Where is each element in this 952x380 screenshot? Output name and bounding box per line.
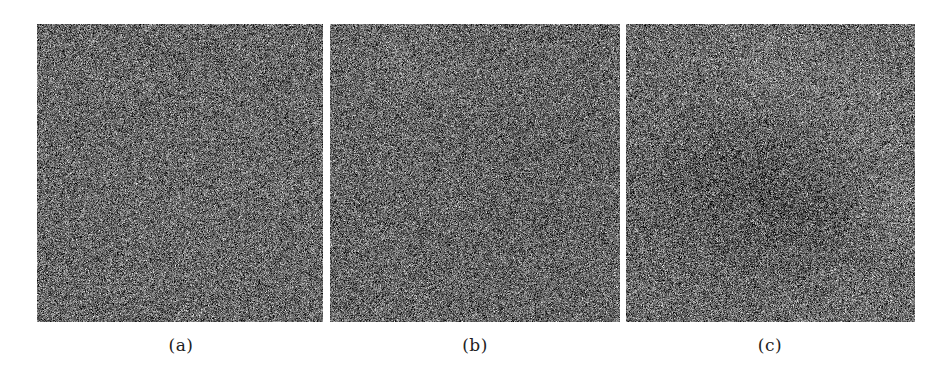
figure: (a) (b) (c) <box>0 0 952 380</box>
noise-image-c <box>626 24 915 322</box>
noise-image-panel-a <box>37 24 323 322</box>
caption-b: (b) <box>435 335 515 355</box>
caption-a: (a) <box>141 335 221 355</box>
noise-image-a <box>37 24 323 322</box>
noise-image-panel-b <box>330 24 620 322</box>
caption-c: (c) <box>730 335 810 355</box>
noise-image-b <box>330 24 620 322</box>
noise-image-panel-c <box>626 24 915 322</box>
